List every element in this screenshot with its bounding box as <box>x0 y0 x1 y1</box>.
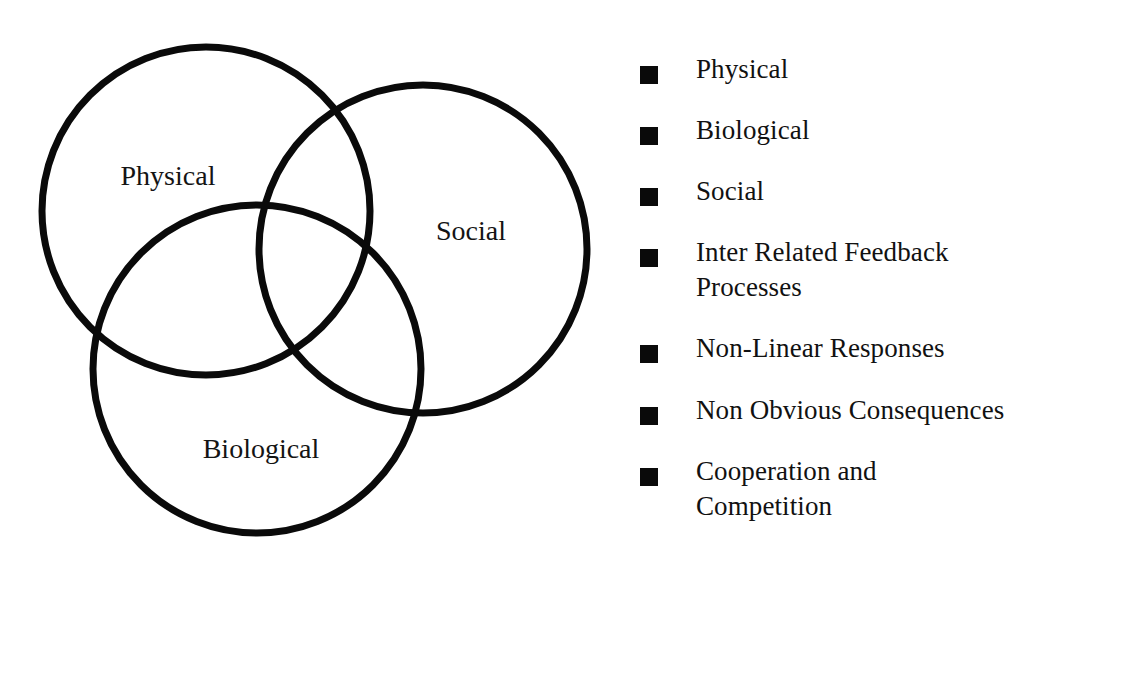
list-item-label: Biological <box>696 113 1110 148</box>
list-item: Physical <box>640 52 1110 87</box>
square-bullet-icon <box>640 249 658 267</box>
list-item-label: Social <box>696 174 1110 209</box>
venn-label-physical: Physical <box>121 160 216 191</box>
list-item-label: Non Obvious Consequences <box>696 393 1110 428</box>
square-bullet-icon <box>640 66 658 84</box>
list-item: Inter Related Feedback Processes <box>640 235 1110 305</box>
square-bullet-icon <box>640 468 658 486</box>
list-item-label: Inter Related Feedback Processes <box>696 235 1110 305</box>
venn-diagram: Physical Social Biological <box>0 0 620 600</box>
list-item-label: Non-Linear Responses <box>696 331 1110 366</box>
venn-label-social: Social <box>436 215 506 246</box>
list-item: Cooperation and Competition <box>640 454 1110 524</box>
square-bullet-icon <box>640 127 658 145</box>
square-bullet-icon <box>640 407 658 425</box>
feature-bullet-list: Physical Biological Social Inter Related… <box>640 52 1110 550</box>
list-item: Social <box>640 174 1110 209</box>
venn-label-biological: Biological <box>203 433 320 464</box>
page-root: Physical Social Biological Physical Biol… <box>0 0 1125 676</box>
square-bullet-icon <box>640 345 658 363</box>
list-item: Non Obvious Consequences <box>640 393 1110 428</box>
list-item: Non-Linear Responses <box>640 331 1110 366</box>
venn-diagram-svg: Physical Social Biological <box>0 0 620 600</box>
list-item: Biological <box>640 113 1110 148</box>
square-bullet-icon <box>640 188 658 206</box>
list-item-label: Cooperation and Competition <box>696 454 1110 524</box>
list-item-label: Physical <box>696 52 1110 87</box>
